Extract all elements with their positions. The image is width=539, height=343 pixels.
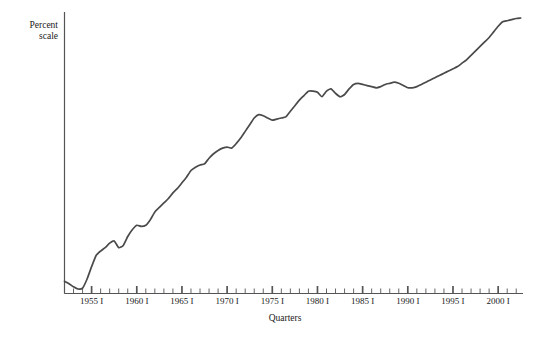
x-axis-tick-label: 1980 I <box>306 296 329 306</box>
x-axis-ticks <box>65 286 517 294</box>
data-series <box>65 18 521 289</box>
x-axis-tick-label: 1975 I <box>261 296 284 306</box>
line-series-path <box>65 18 521 289</box>
x-axis-tick-label: 2000 I <box>487 296 510 306</box>
x-axis-tick-label: 1995 I <box>441 296 464 306</box>
x-axis-tick-label: 1955 I <box>80 296 103 306</box>
x-axis-tick-label: 1970 I <box>215 296 238 306</box>
x-axis-title: Quarters <box>230 313 340 324</box>
x-axis-tick-label: 1990 I <box>396 296 419 306</box>
chart-figure: Percent scale 1955 I1960 I1965 I1970 I19… <box>0 0 539 343</box>
x-axis-tick-label: 1985 I <box>351 296 374 306</box>
x-axis-tick-label: 1960 I <box>125 296 148 306</box>
x-axis-tick-label: 1965 I <box>170 296 193 306</box>
axes <box>65 12 524 294</box>
plot-area <box>0 0 539 343</box>
